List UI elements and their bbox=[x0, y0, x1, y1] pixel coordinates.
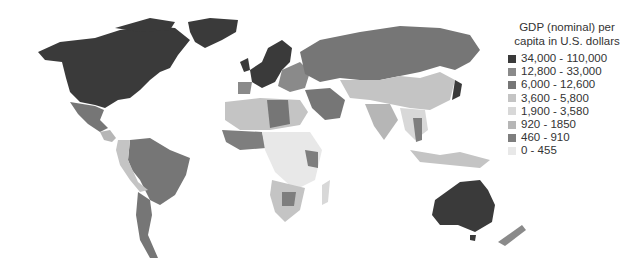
legend-swatch bbox=[508, 107, 516, 115]
legend-label: 34,000 - 110,000 bbox=[521, 52, 607, 65]
legend-item: 12,800 - 33,000 bbox=[508, 65, 626, 78]
region-brazil[interactable] bbox=[128, 138, 190, 205]
legend-swatch bbox=[508, 68, 516, 76]
legend-title: GDP (nominal) per capita in U.S. dollars bbox=[508, 20, 626, 48]
legend-title-line1: GDP (nominal) per bbox=[508, 20, 626, 34]
legend-swatch bbox=[508, 81, 516, 89]
region-west-africa[interactable] bbox=[222, 130, 266, 150]
legend-item: 920 - 1850 bbox=[508, 118, 626, 131]
region-new-zealand[interactable] bbox=[498, 225, 526, 246]
legend-swatch bbox=[508, 134, 516, 142]
legend-title-line2: capita in U.S. dollars bbox=[508, 34, 626, 48]
legend-label: 0 - 455 bbox=[521, 144, 557, 157]
legend-label: 460 - 910 bbox=[521, 131, 570, 144]
legend-label: 1,900 - 3,580 bbox=[521, 105, 589, 118]
legend-swatch bbox=[508, 94, 516, 102]
legend-item: 0 - 455 bbox=[508, 144, 626, 157]
region-north-africa[interactable] bbox=[225, 98, 308, 130]
region-central-america[interactable] bbox=[100, 130, 116, 142]
legend-swatch bbox=[508, 55, 516, 63]
legend-item: 6,000 - 12,600 bbox=[508, 78, 626, 91]
legend: GDP (nominal) per capita in U.S. dollars… bbox=[508, 20, 626, 158]
legend-label: 6,000 - 12,600 bbox=[521, 78, 595, 91]
region-madagascar[interactable] bbox=[322, 180, 330, 205]
region-middle-east[interactable] bbox=[305, 88, 345, 120]
legend-item: 460 - 910 bbox=[508, 131, 626, 144]
legend-item: 34,000 - 110,000 bbox=[508, 52, 626, 65]
legend-label: 920 - 1850 bbox=[521, 118, 576, 131]
region-india[interactable] bbox=[365, 104, 398, 140]
region-greenland[interactable] bbox=[188, 18, 238, 48]
legend-swatch bbox=[508, 147, 516, 155]
legend-label: 12,800 - 33,000 bbox=[521, 65, 602, 78]
region-tasmania[interactable] bbox=[470, 235, 476, 241]
region-uk[interactable] bbox=[240, 58, 250, 72]
region-australia[interactable] bbox=[432, 180, 495, 232]
region-iberia[interactable] bbox=[238, 82, 252, 94]
region-north-america[interactable] bbox=[38, 26, 190, 108]
legend-swatch bbox=[508, 121, 516, 129]
region-indonesia[interactable] bbox=[410, 150, 490, 168]
legend-label: 3,600 - 5,800 bbox=[521, 92, 589, 105]
legend-item: 1,900 - 3,580 bbox=[508, 105, 626, 118]
region-russia[interactable] bbox=[300, 26, 480, 82]
region-libya[interactable] bbox=[267, 100, 290, 128]
region-botswana[interactable] bbox=[282, 192, 296, 206]
legend-item: 3,600 - 5,800 bbox=[508, 92, 626, 105]
